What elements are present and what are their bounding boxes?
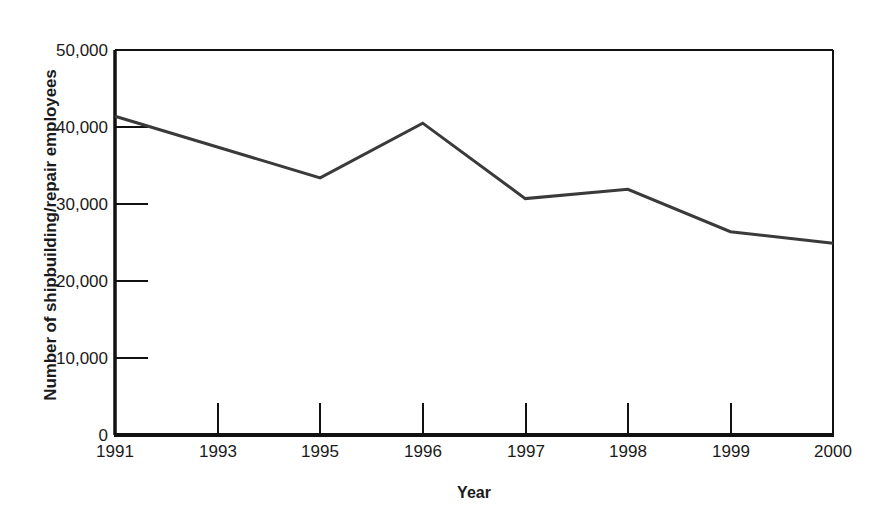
plot-background (115, 50, 833, 435)
chart-container: Number of shipbuilding/repair employees … (0, 0, 870, 513)
plot-area (0, 0, 870, 513)
